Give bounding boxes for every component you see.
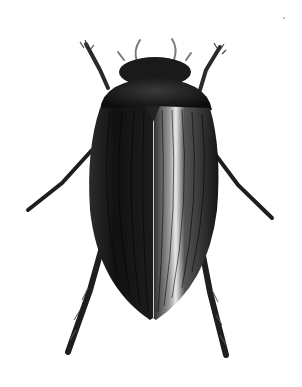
pronotum: [100, 78, 212, 110]
beetle-illustration: [0, 0, 302, 387]
speck-artifact: [283, 17, 285, 19]
beetle-figure: [0, 0, 302, 387]
